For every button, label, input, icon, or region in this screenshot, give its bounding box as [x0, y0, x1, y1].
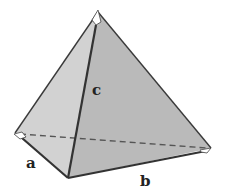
label-c: c — [92, 81, 101, 99]
label-a: a — [26, 154, 36, 172]
tetrahedron-diagram: c a b — [0, 0, 226, 193]
label-b: b — [140, 172, 151, 190]
